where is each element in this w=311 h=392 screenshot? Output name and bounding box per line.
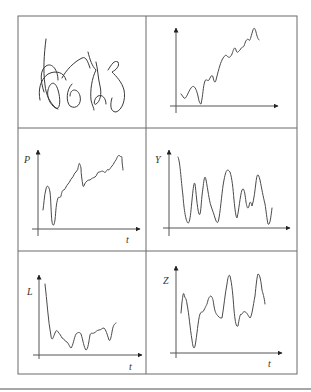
t-axis-label: t	[268, 358, 271, 369]
y-axis-label: Y	[155, 154, 162, 165]
p-axis-label: P	[23, 154, 30, 165]
p-curve	[43, 155, 123, 225]
z-panel: Z t	[163, 266, 282, 369]
trend-panel	[170, 28, 278, 113]
y-panel: Y	[155, 150, 290, 236]
t-axis-label: t	[126, 234, 129, 245]
l-panel: L t	[26, 275, 142, 372]
figure-canvas: P t Y L t Z t	[0, 0, 311, 392]
t-axis-label: t	[129, 361, 132, 372]
z-curve	[181, 274, 265, 348]
l-axis-label: L	[26, 286, 33, 297]
trend-curve	[181, 28, 259, 104]
p-panel: P t	[23, 150, 140, 245]
l-curve	[45, 284, 116, 350]
y-curve	[178, 157, 272, 224]
z-axis-label: Z	[163, 275, 169, 286]
signature-panel	[39, 39, 124, 112]
panel-grid	[18, 16, 297, 374]
signature-scribble	[39, 39, 124, 112]
